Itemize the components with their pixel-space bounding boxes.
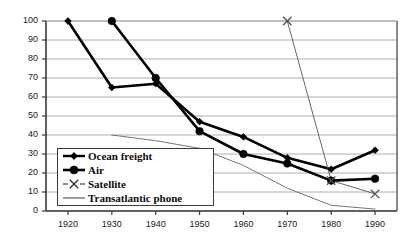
- legend-item-air: Air: [58, 163, 213, 177]
- marker-filled-circle: [284, 160, 292, 168]
- series-line-ocean-freight: [68, 21, 375, 169]
- x-tick-label: 1980: [309, 219, 353, 229]
- y-tick-label: 30: [12, 148, 38, 158]
- x-tick-label: 1990: [353, 219, 397, 229]
- marker-filled-circle: [240, 150, 248, 158]
- legend-item-transatlantic-phone: Transatlantic phone: [58, 191, 213, 205]
- marker-x-cross: [371, 190, 379, 198]
- marker-filled-circle: [152, 74, 160, 82]
- legend-item-label: Transatlantic phone: [87, 191, 182, 205]
- line-marker-icon: [61, 191, 87, 205]
- chart-legend: Ocean freightAirSatelliteTransatlantic p…: [57, 148, 214, 206]
- x-tick-label: 1970: [265, 219, 309, 229]
- y-tick-label: 70: [12, 72, 38, 82]
- legend-item-satellite: Satellite: [58, 177, 213, 191]
- y-tick-label: 0: [12, 205, 38, 215]
- y-tick-label: 40: [12, 129, 38, 139]
- marker-filled-circle: [70, 166, 78, 174]
- y-tick-label: 10: [12, 186, 38, 196]
- legend-item-label: Satellite: [87, 177, 126, 191]
- marker-filled-circle: [196, 127, 204, 135]
- y-tick-label: 90: [12, 34, 38, 44]
- x-tick-label: 1950: [178, 219, 222, 229]
- marker-filled-circle: [108, 17, 116, 25]
- x-marker-icon: [61, 177, 87, 191]
- y-tick-label: 50: [12, 110, 38, 120]
- marker-filled-circle: [371, 175, 379, 183]
- x-tick-label: 1960: [221, 219, 265, 229]
- legend-item-ocean-freight: Ocean freight: [58, 149, 213, 163]
- y-tick-label: 100: [12, 15, 38, 25]
- x-tick-label: 1940: [134, 219, 178, 229]
- y-tick-label: 60: [12, 91, 38, 101]
- legend-item-label: Ocean freight: [87, 149, 152, 163]
- y-tick-label: 80: [12, 53, 38, 63]
- legend-item-label: Air: [87, 163, 104, 177]
- y-tick-label: 20: [12, 167, 38, 177]
- marker-filled-diamond: [70, 152, 77, 159]
- marker-x-cross: [70, 180, 78, 188]
- x-tick-label: 1920: [46, 219, 90, 229]
- x-tick-label: 1930: [90, 219, 134, 229]
- diamond-marker-icon: [61, 149, 87, 163]
- chart-figure: 1009080706050403020100 19201930194019501…: [0, 0, 420, 242]
- circle-marker-icon: [61, 163, 87, 177]
